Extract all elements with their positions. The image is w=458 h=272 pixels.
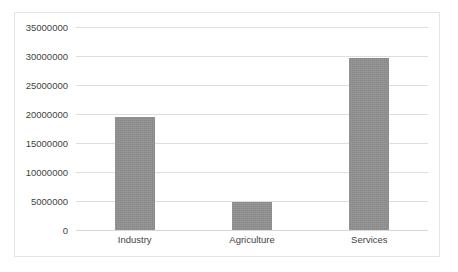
y-tick-label: 0 xyxy=(0,225,68,236)
plot-area xyxy=(76,27,428,230)
bar-industry[interactable] xyxy=(115,117,155,230)
gridline xyxy=(76,230,428,231)
x-axis: IndustryAgricultureServices xyxy=(76,234,428,256)
y-tick-label: 35000000 xyxy=(0,22,68,33)
y-tick-label: 30000000 xyxy=(0,51,68,62)
y-tick-label: 5000000 xyxy=(0,196,68,207)
x-tick-label: Agriculture xyxy=(229,234,274,245)
y-tick-label: 20000000 xyxy=(0,109,68,120)
y-tick-label: 25000000 xyxy=(0,80,68,91)
x-tick-label: Services xyxy=(351,234,387,245)
bars-layer xyxy=(76,27,428,230)
bar-agriculture[interactable] xyxy=(232,202,272,230)
x-tick-label: Industry xyxy=(118,234,152,245)
y-axis: 0500000010000000150000002000000025000000… xyxy=(0,0,70,272)
y-tick-label: 15000000 xyxy=(0,138,68,149)
bar-services[interactable] xyxy=(349,58,389,230)
y-tick-label: 10000000 xyxy=(0,167,68,178)
